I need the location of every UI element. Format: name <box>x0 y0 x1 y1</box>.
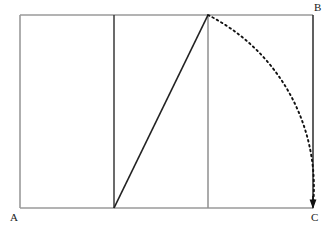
geometry-canvas <box>0 0 333 235</box>
vertex-label-a: A <box>10 212 18 223</box>
vertex-label-b: B <box>314 2 321 13</box>
diagonal-line <box>114 15 208 208</box>
geometry-figure: A B C <box>0 0 333 235</box>
vertex-label-c: C <box>311 212 318 223</box>
dashed-arc <box>208 15 314 206</box>
